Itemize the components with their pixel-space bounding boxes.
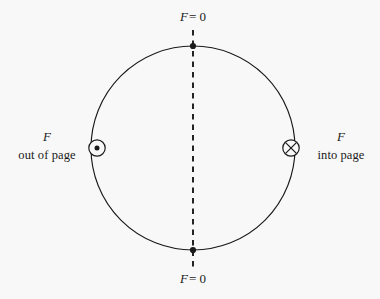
- force-symbol-bottom: F: [180, 271, 189, 286]
- label-force-into-page: F into page: [306, 130, 376, 162]
- label-force-out-of-page: F out of page: [8, 130, 86, 162]
- out-of-page-icon: [89, 140, 105, 156]
- into-page-icon: [283, 140, 299, 156]
- force-direction-right: into page: [306, 148, 376, 162]
- physics-figure: F= 0 F= 0 F out of page F into page: [0, 0, 380, 299]
- force-value-top: = 0: [189, 9, 206, 24]
- force-direction-left: out of page: [8, 148, 86, 162]
- force-value-bottom: = 0: [189, 271, 206, 286]
- force-symbol-left: F: [8, 130, 86, 145]
- label-force-zero-bottom: F= 0: [180, 272, 206, 287]
- bottom-point-marker: [190, 247, 196, 253]
- force-symbol-right: F: [306, 130, 376, 145]
- label-force-zero-top: F= 0: [180, 10, 206, 25]
- force-symbol-top: F: [180, 9, 189, 24]
- top-point-marker: [190, 43, 196, 49]
